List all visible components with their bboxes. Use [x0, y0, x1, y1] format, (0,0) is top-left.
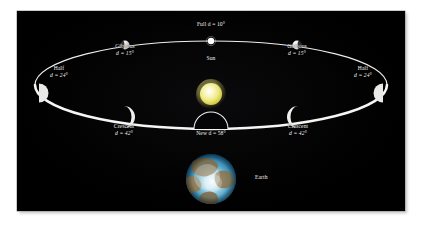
label-half-right-d: d = 24° — [333, 72, 393, 79]
lunar-phase-figure: Full d = 10° Gibbous d = 15° Gibbous d =… — [0, 0, 422, 226]
label-crescent-left: Crescent d = 42° — [91, 123, 157, 137]
sun-body — [196, 79, 226, 109]
label-earth: Earth — [255, 174, 295, 181]
orbit-scene — [17, 11, 405, 211]
label-gibbous-left-name: Gibbous — [93, 43, 157, 50]
label-crescent-right-name: Crescent — [265, 123, 331, 130]
label-crescent-right: Crescent d = 42° — [265, 123, 331, 137]
diagram-panel: Full d = 10° Gibbous d = 15° Gibbous d =… — [17, 11, 405, 211]
label-sun: Sun — [188, 55, 234, 62]
label-full: Full d = 10° — [169, 21, 253, 28]
label-crescent-right-d: d = 42° — [265, 130, 331, 137]
label-gibbous-right-d: d = 15° — [265, 50, 329, 57]
label-gibbous-right: Gibbous d = 15° — [265, 43, 329, 57]
label-new-text: New d = 58° — [169, 130, 253, 137]
moon-new — [194, 112, 228, 129]
label-full-text: Full d = 10° — [169, 21, 253, 28]
label-earth-text: Earth — [255, 174, 295, 181]
label-gibbous-left-d: d = 15° — [93, 50, 157, 57]
label-half-right: Half d = 24° — [333, 65, 393, 79]
label-half-left: Half d = 24° — [29, 65, 89, 79]
label-sun-text: Sun — [188, 55, 234, 62]
label-gibbous-left: Gibbous d = 15° — [93, 43, 157, 57]
label-new: New d = 58° — [169, 130, 253, 137]
label-crescent-left-d: d = 42° — [91, 130, 157, 137]
label-half-right-name: Half — [333, 65, 393, 72]
label-crescent-left-name: Crescent — [91, 123, 157, 130]
label-gibbous-right-name: Gibbous — [265, 43, 329, 50]
earth-body — [184, 154, 237, 206]
label-half-left-d: d = 24° — [29, 72, 89, 79]
label-half-left-name: Half — [29, 65, 89, 72]
